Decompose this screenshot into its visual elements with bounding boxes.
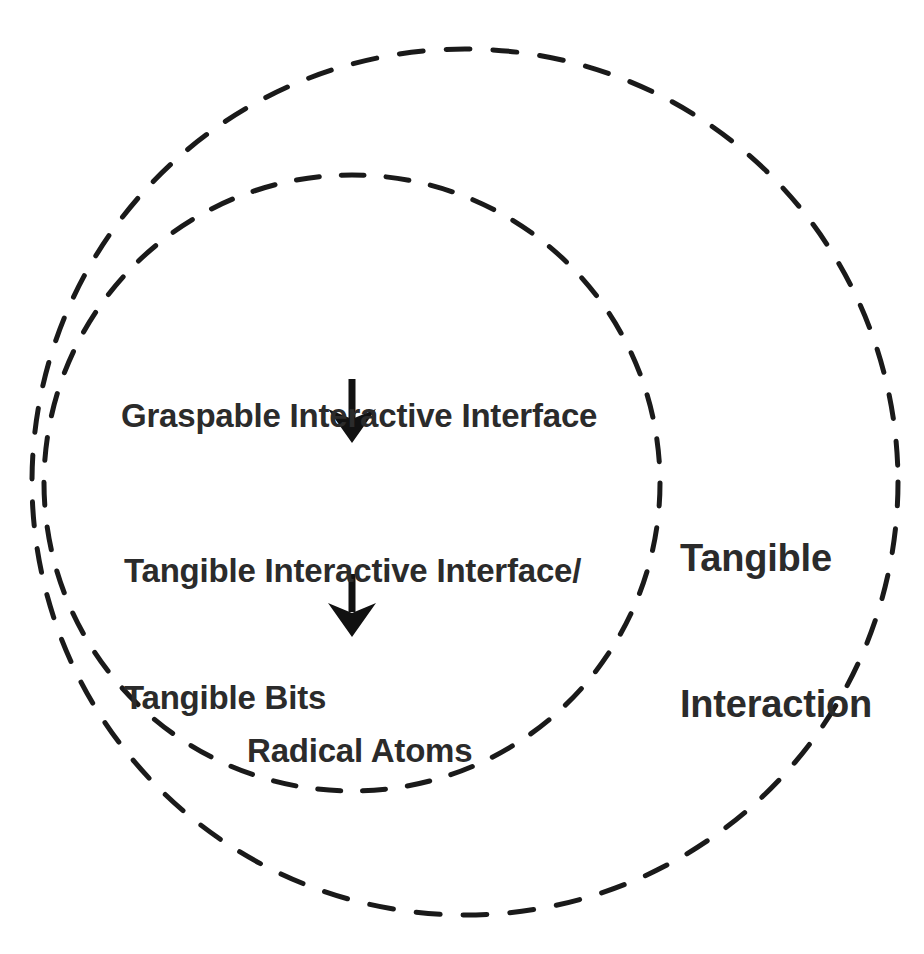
label-tangible-interface-line1: Tangible Interactive Interface/ — [124, 550, 581, 592]
label-tangible-interaction: Tangible Interaction — [680, 437, 872, 826]
label-tangible-interaction-line1: Tangible — [680, 534, 872, 583]
diagram-canvas: Graspable Interactive Interface Tangible… — [0, 0, 924, 954]
label-radical-atoms: Radical Atoms — [247, 654, 472, 849]
label-tangible-interaction-line2: Interaction — [680, 680, 872, 729]
label-graspable-text: Graspable Interactive Interface — [121, 397, 597, 436]
label-radical-atoms-text: Radical Atoms — [247, 732, 472, 771]
